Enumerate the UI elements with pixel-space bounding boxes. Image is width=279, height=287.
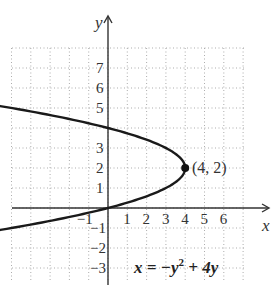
y-tick-label: −3 <box>90 261 106 276</box>
y-axis-label: y <box>95 14 103 31</box>
y-tick-label: 5 <box>96 101 104 116</box>
x-tick-label: 2 <box>143 212 151 227</box>
y-tick-label: −2 <box>90 241 106 256</box>
y-tick-label: −1 <box>90 221 106 236</box>
x-tick-label: 6 <box>220 212 228 227</box>
x-tick-label: 1 <box>123 212 131 227</box>
equation-lhs: x = −y <box>134 258 179 277</box>
y-tick-label: 2 <box>96 161 104 176</box>
x-tick-label: 4 <box>181 212 189 227</box>
equation-rhs: + 4y <box>184 258 218 277</box>
equation-label: x = −y2 + 4y <box>134 256 218 278</box>
vertex-label: (4, 2) <box>192 160 227 176</box>
y-tick-label: 3 <box>96 141 104 156</box>
y-tick-label: 6 <box>96 81 104 96</box>
x-tick-label: 5 <box>201 212 209 227</box>
y-tick-label: 7 <box>96 61 104 76</box>
x-axis-label: x <box>262 217 270 234</box>
y-tick-label: 1 <box>96 181 104 196</box>
parabola-plot <box>0 0 279 287</box>
vertex-point <box>181 164 189 172</box>
x-tick-label: 3 <box>162 212 170 227</box>
